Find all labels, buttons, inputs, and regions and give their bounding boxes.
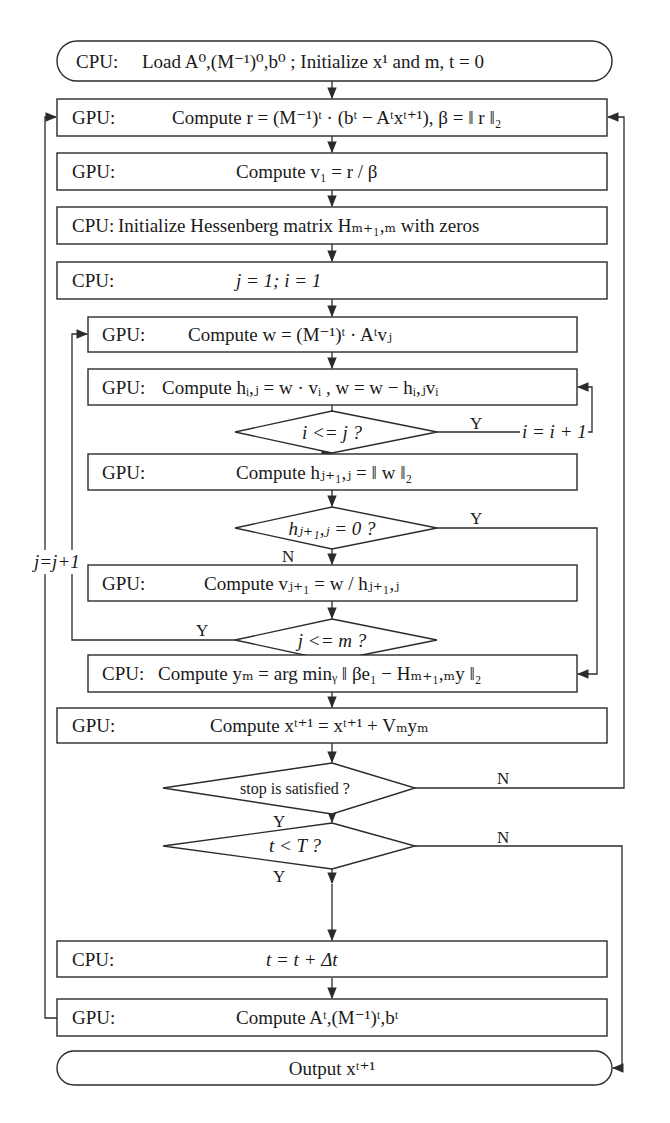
process-text: Compute Aᵗ,(M⁻¹)ᵗ,bᵗ [236,1007,399,1029]
node-compute-r: GPU: Compute r = (M⁻¹)ᵗ · (bᵗ − Aᵗxᵗ⁺¹),… [57,99,607,136]
process-text: Initialize Hessenberg matrix Hₘ₊₁,ₘ with… [118,215,479,236]
edge-label-no: N [497,828,509,847]
decision-text: i <= j ? [302,422,362,443]
node-compute-ym: CPU: Compute yₘ = arg minᵧ ‖ βe₁ − Hₘ₊₁,… [88,655,577,692]
node-output: Output xᵗ⁺¹ [57,1051,612,1085]
node-compute-vj1: GPU: Compute vⱼ₊₁ = w / hⱼ₊₁,ⱼ [88,565,577,601]
output-text: Output xᵗ⁺¹ [289,1058,376,1079]
process-text: Compute hⱼ₊₁,ⱼ = ‖ w ‖₂ [236,462,412,483]
node-update-t: CPU: t = t + Δt [57,941,607,977]
node-start: CPU: Load A⁰,(M⁻¹)⁰,b⁰ ; Initialize x¹ a… [57,41,612,81]
node-compute-w: GPU: Compute w = (M⁻¹)ᵗ · Aᵗvⱼ [88,317,577,352]
process-text: Compute w = (M⁻¹)ᵗ · Aᵗvⱼ [188,324,392,346]
process-text: Compute v₁ = r / β [236,161,378,182]
edge-label-yes: Y [470,414,482,433]
decision-text: stop is satisfied ? [240,780,350,798]
process-text: Compute vⱼ₊₁ = w / hⱼ₊₁,ⱼ [204,573,399,594]
node-compute-v1: GPU: Compute v₁ = r / β [57,153,607,190]
unit-label: GPU: [102,324,145,345]
unit-label: GPU: [102,377,145,398]
unit-label: GPU: [72,1007,115,1028]
edge-label-yes: Y [196,621,208,640]
unit-label: GPU: [102,573,145,594]
node-compute-hj1j: GPU: Compute hⱼ₊₁,ⱼ = ‖ w ‖₂ [88,454,577,490]
node-compute-hij: GPU: Compute hᵢ,ⱼ = w · vᵢ , w = w − hᵢ,… [88,369,577,405]
unit-label: GPU: [72,107,115,128]
edge-label-yes: Y [470,509,482,528]
edge-label-i-increment: i = i + 1 [522,421,587,442]
decision-text: t < T ? [269,835,322,856]
process-text: Compute r = (M⁻¹)ᵗ · (bᵗ − Aᵗxᵗ⁺¹), β = … [172,107,501,129]
decision-text: j <= m ? [295,630,367,651]
node-compute-xt1: GPU: Compute xᵗ⁺¹ = xᵗ⁺¹ + Vₘyₘ [57,708,607,743]
node-init-hessenberg: CPU: Initialize Hessenberg matrix Hₘ₊₁,ₘ… [57,207,607,244]
process-text: Compute xᵗ⁺¹ = xᵗ⁺¹ + Vₘyₘ [210,715,429,736]
node-check-stop: stop is satisfied ? [163,763,415,814]
process-text: Compute yₘ = arg minᵧ ‖ βe₁ − Hₘ₊₁,ₘy ‖₂ [158,663,481,685]
unit-label: CPU: [72,949,114,970]
process-text: t = t + Δt [266,949,338,970]
unit-label: CPU: [102,663,144,684]
decision-text: hⱼ₊₁,ⱼ = 0 ? [289,518,376,539]
edge-label-yes: Y [273,867,285,886]
process-text: j = 1; i = 1 [233,270,321,291]
edge-label-j-increment: j=j+1 [31,551,80,572]
start-unit-label: CPU: [76,51,118,72]
edge-label-no: N [282,547,294,566]
node-compute-At: GPU: Compute Aᵗ,(M⁻¹)ᵗ,bᵗ [57,999,607,1036]
node-check-h-zero: hⱼ₊₁,ⱼ = 0 ? [235,507,437,549]
edge-label-no: N [497,769,509,788]
node-check-t-lt-T: t < T ? [163,823,415,869]
unit-label: CPU: [72,270,114,291]
edge-label-yes: Y [273,812,285,831]
unit-label: GPU: [102,462,145,483]
flowchart-canvas: CPU: Load A⁰,(M⁻¹)⁰,b⁰ ; Initialize x¹ a… [0,0,670,1123]
start-text: Load A⁰,(M⁻¹)⁰,b⁰ ; Initialize x¹ and m,… [142,51,484,73]
unit-label: CPU: [72,215,114,236]
unit-label: GPU: [72,161,115,182]
process-text: Compute hᵢ,ⱼ = w · vᵢ , w = w − hᵢ,ⱼvᵢ [162,377,438,398]
node-check-i-le-j: i <= j ? [235,411,437,453]
node-init-ij: CPU: j = 1; i = 1 [57,262,607,299]
unit-label: GPU: [72,715,115,736]
